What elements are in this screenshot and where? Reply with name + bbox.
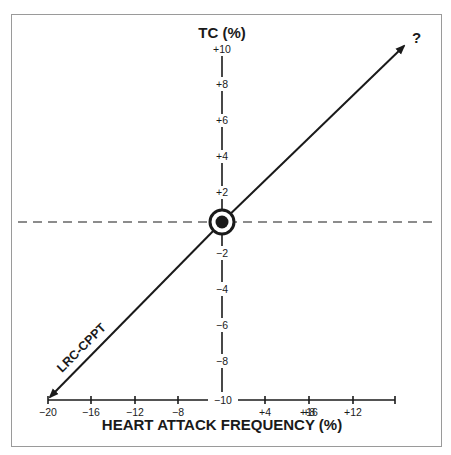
svg-text:−12: −12 xyxy=(126,406,144,418)
svg-text:+6: +6 xyxy=(216,114,228,126)
lrc-cppt-label: LRC-CPPT xyxy=(54,320,109,375)
svg-text:−4: −4 xyxy=(216,283,228,295)
svg-text:−6: −6 xyxy=(216,319,228,331)
y-axis-title: TC (%) xyxy=(198,24,246,41)
svg-text:−10: −10 xyxy=(214,394,232,406)
svg-text:−16: −16 xyxy=(82,406,100,418)
svg-text:−2: −2 xyxy=(216,247,228,259)
origin-bullseye-icon xyxy=(210,210,234,234)
svg-text:+8: +8 xyxy=(216,78,228,90)
svg-text:−8: −8 xyxy=(216,355,228,367)
svg-text:+4: +4 xyxy=(259,406,271,418)
question-mark-label: ? xyxy=(412,29,421,46)
svg-text:−8: −8 xyxy=(172,406,184,418)
svg-text:+16: +16 xyxy=(300,406,318,418)
svg-text:+2: +2 xyxy=(216,186,228,198)
lrc-cppt-trend-line xyxy=(222,46,404,222)
svg-text:+10: +10 xyxy=(213,43,231,55)
lrc-cppt-trend-line-lower xyxy=(50,222,222,397)
chart: TC (%) HEART ATTACK FREQUENCY (%) ? LRC-… xyxy=(0,0,451,455)
x-axis-title: HEART ATTACK FREQUENCY (%) xyxy=(102,416,342,433)
svg-text:+4: +4 xyxy=(216,150,228,162)
svg-text:−20: −20 xyxy=(39,406,57,418)
svg-text:+12: +12 xyxy=(344,406,362,418)
